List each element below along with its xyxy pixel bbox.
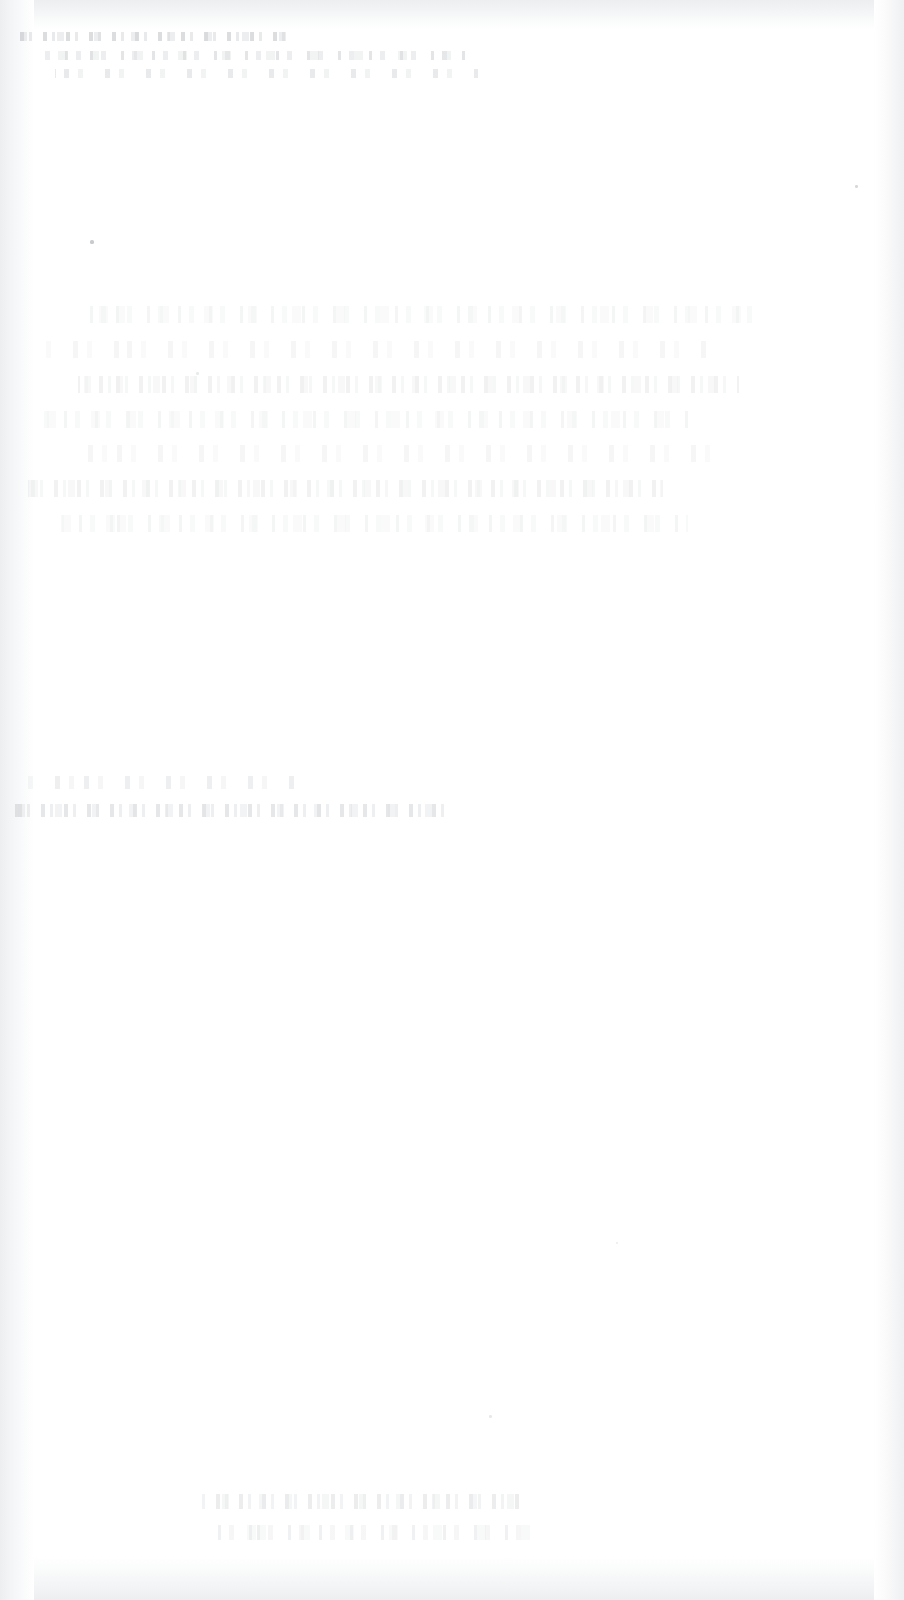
ghost-text-line [87,306,764,323]
ghost-text-line [4,804,444,817]
page-edge-shadow-right [874,0,904,1600]
ghost-text-region [28,306,864,550]
page-edge-shadow-left [0,0,34,1600]
ghost-text-line [55,69,478,78]
ghost-text-line [214,1525,532,1540]
page-edge-shadow-bottom [0,1556,904,1600]
ghost-text-line [78,376,738,393]
ghost-text-line [20,32,288,41]
ghost-text-region [4,776,448,832]
ghost-text-line [36,411,688,428]
ghost-text-line [70,445,714,462]
ghost-text-line [37,51,465,60]
ghost-text-region [20,32,452,88]
dust-speck [90,240,94,244]
ghost-text-line [61,515,688,532]
dust-speck [616,1242,618,1244]
dust-speck [196,372,199,375]
ghost-text-line [198,1494,520,1509]
ghost-text-region [186,1494,584,1556]
ghost-text-line [45,341,714,358]
dust-speck [855,185,858,188]
scanned-page [0,0,904,1600]
page-edge-shadow-top [0,0,904,30]
dust-speck [489,1415,492,1418]
ghost-text-line [26,776,301,789]
ghost-text-line [28,480,663,497]
